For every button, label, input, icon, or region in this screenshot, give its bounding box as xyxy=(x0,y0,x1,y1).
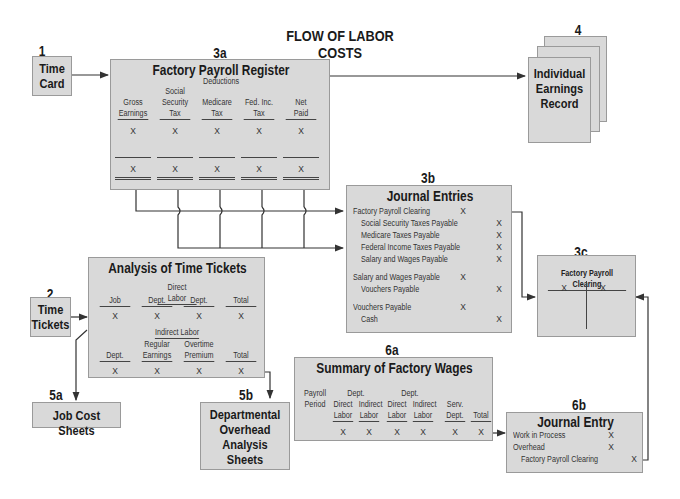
analysis-time-tickets-box[interactable]: Analysis of Time Tickets Direct Labor In… xyxy=(88,257,265,378)
dept-overhead-analysis-box[interactable]: Departmental Overhead Analysis Sheets xyxy=(200,402,290,470)
je-account-8: Cash xyxy=(361,314,378,324)
register-col-2-line-2: Tax xyxy=(202,108,233,120)
journal-entries-title: Journal Entries xyxy=(359,188,500,204)
job-cost-sheets-label: Job Cost Sheets xyxy=(34,408,118,438)
register-col-1-line-1: Security xyxy=(160,97,191,108)
je-account-7: Vouchers Payable xyxy=(353,302,411,312)
summary-title: Summary of Factory Wages xyxy=(310,360,479,376)
summary-col-0-x: X xyxy=(331,427,355,437)
je-account-4: Salary and Wages Payable xyxy=(361,254,448,264)
je-debit-7: X xyxy=(457,302,469,312)
dept-label-1: Dept. xyxy=(343,388,369,399)
earnings-label-3: Record xyxy=(534,96,586,111)
summary-col-0-line-0: Direct xyxy=(333,399,353,410)
summary-factory-wages-box[interactable]: Summary of Factory Wages Payroll Period … xyxy=(294,357,493,441)
register-col-2-x1: X xyxy=(199,126,235,136)
node-number-3b: 3b xyxy=(418,170,438,186)
je-account-6: Vouchers Payable xyxy=(361,284,419,294)
dept-overhead-label-3: Analysis xyxy=(203,437,288,452)
je-credit-1: X xyxy=(493,218,505,228)
register-col-0-subtotal-line xyxy=(115,156,151,158)
job-cost-sheets-box[interactable]: Job Cost Sheets xyxy=(32,402,121,428)
summary-col-2-line-0: Direct xyxy=(387,399,407,410)
earnings-label-1: Individual xyxy=(534,66,586,81)
direct-col-1-x: X xyxy=(139,311,175,321)
je6b-account-1: Overhead xyxy=(513,442,545,452)
je-account-0: Factory Payroll Clearing xyxy=(353,206,430,216)
earnings-label-2: Earnings xyxy=(534,81,586,96)
je-credit-3: X xyxy=(493,242,505,252)
dept-overhead-label-4: Sheets xyxy=(203,452,288,467)
line-ss-to-je xyxy=(178,190,343,248)
register-col-4-total-line xyxy=(283,176,319,180)
dept-overhead-label-1: Departmental xyxy=(203,407,288,422)
earnings-record-box[interactable]: Individual Earnings Record xyxy=(528,57,591,143)
register-col-1-total-line xyxy=(157,176,193,180)
indirect-col-2-line-1: Premium xyxy=(184,350,215,362)
summary-col-4-x: X xyxy=(443,427,467,437)
clearing-credit: X xyxy=(597,283,609,293)
summary-col-1-line-0: Indirect xyxy=(359,399,379,410)
register-col-3-line-1: Fed. Inc. xyxy=(244,97,275,108)
je-credit-6: X xyxy=(493,284,505,294)
direct-col-0: Job xyxy=(100,295,131,307)
direct-col-1: Dept. xyxy=(142,295,173,307)
indirect-col-3-line-1: Total xyxy=(226,350,257,362)
register-col-4-line-2: Paid xyxy=(286,108,317,120)
time-tickets-box[interactable]: Time Tickets xyxy=(30,297,71,337)
payroll-clearing-t-account[interactable]: Factory Payroll Clearing X X xyxy=(537,255,636,337)
je6b-debit-1: X xyxy=(605,442,617,452)
indirect-col-1-x: X xyxy=(139,366,175,376)
je-account-3: Federal Income Taxes Payable xyxy=(361,242,460,252)
t-account-divider xyxy=(586,281,587,329)
register-col-1-line-0: Social xyxy=(160,86,191,97)
register-col-3-line-2: Tax xyxy=(244,108,275,120)
register-col-0-x1: X xyxy=(115,126,151,136)
register-col-3-total-line xyxy=(241,176,277,180)
summary-col-5-x: X xyxy=(469,427,493,437)
register-col-4-x2: X xyxy=(283,164,319,174)
je-debit-5: X xyxy=(457,272,469,282)
indirect-labor-label: Indirect Labor xyxy=(155,327,199,339)
dept-overhead-label-2: Overhead xyxy=(203,422,288,437)
payroll-period-line-1: Payroll xyxy=(301,388,328,399)
register-col-0-x2: X xyxy=(115,164,151,174)
time-card-label-2: Card xyxy=(36,76,68,91)
indirect-col-0-line-1: Dept. xyxy=(100,350,131,362)
summary-col-3-x: X xyxy=(411,427,435,437)
je-account-1: Social Security Taxes Payable xyxy=(361,218,458,228)
je-account-2: Medicare Taxes Payable xyxy=(361,230,440,240)
arrow-je-to-clearing xyxy=(512,212,535,297)
direct-col-2: Dept. xyxy=(184,295,215,307)
summary-col-5-line-1: Total xyxy=(471,410,491,422)
time-tickets-label-2: Tickets xyxy=(29,317,72,332)
summary-col-0-line-1: Labor xyxy=(333,410,353,422)
factory-payroll-register[interactable]: Factory Payroll Register Deductions Gros… xyxy=(110,59,330,190)
register-col-1-x2: X xyxy=(157,164,193,174)
je-credit-4: X xyxy=(493,254,505,264)
register-col-0-total-line xyxy=(115,176,151,180)
register-col-2-subtotal-line xyxy=(199,156,235,158)
direct-col-2-x: X xyxy=(181,311,217,321)
journal-entry-6b-box[interactable]: Journal Entry Work in ProcessXOverheadXF… xyxy=(506,412,643,473)
register-col-3-x1: X xyxy=(241,126,277,136)
time-card-box[interactable]: Time Card xyxy=(32,56,72,96)
arrow-analysis-to-jobcost xyxy=(76,330,87,400)
line-gross-to-je xyxy=(136,190,343,211)
register-col-2-x2: X xyxy=(199,164,235,174)
node-number-6b: 6b xyxy=(569,397,589,413)
indirect-col-1-line-0: Regular xyxy=(142,339,173,350)
summary-col-4-line-1: Dept. xyxy=(445,410,465,422)
register-col-4-subtotal-line xyxy=(283,156,319,158)
journal-entries-box[interactable]: Journal Entries Factory Payroll Clearing… xyxy=(346,185,512,333)
je-credit-2: X xyxy=(493,230,505,240)
time-tickets-label-1: Time xyxy=(29,302,72,317)
register-col-4-x1: X xyxy=(283,126,319,136)
summary-col-1-line-1: Labor xyxy=(359,410,379,422)
je6b-account-0: Work in Process xyxy=(513,430,565,440)
je-debit-0: X xyxy=(457,206,469,216)
summary-col-2-x: X xyxy=(385,427,409,437)
journal-entry-6b-title: Journal Entry xyxy=(517,414,633,430)
je-account-5: Salary and Wages Payable xyxy=(353,272,440,282)
direct-col-3: Total xyxy=(226,295,257,307)
